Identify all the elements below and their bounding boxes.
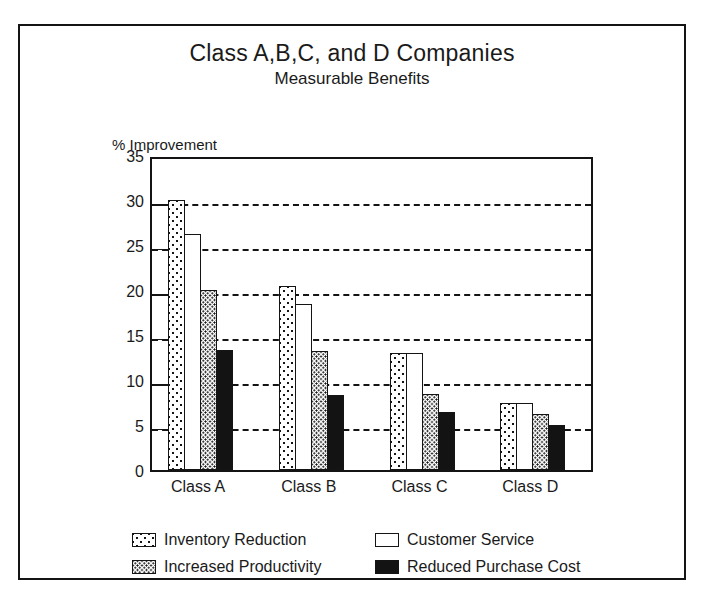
bar	[200, 290, 217, 470]
y-axis-tick-label: 35	[112, 148, 144, 166]
bar	[184, 234, 201, 470]
bar	[279, 286, 296, 471]
bar-group	[152, 159, 263, 470]
chart-legend: Inventory Reduction Customer Service Inc…	[132, 526, 612, 580]
bar	[311, 351, 328, 470]
bar	[168, 200, 185, 470]
bar	[295, 304, 312, 471]
x-axis-tick-label: Class D	[502, 478, 558, 496]
legend-swatch-icon	[132, 560, 156, 574]
bar	[406, 353, 423, 470]
y-axis-tick-label: 0	[112, 463, 144, 481]
y-axis-tick-label: 10	[112, 373, 144, 391]
bar-group	[374, 159, 485, 470]
y-axis-tick-label: 15	[112, 328, 144, 346]
legend-item-increased-productivity: Increased Productivity	[132, 558, 375, 576]
x-axis-tick-label: Class C	[391, 478, 447, 496]
legend-row: Increased Productivity Reduced Purchase …	[132, 553, 612, 580]
legend-swatch-icon	[375, 533, 399, 547]
bar	[216, 350, 233, 470]
bar	[516, 403, 533, 471]
y-axis-tick-label: 20	[112, 283, 144, 301]
y-axis-tick-label: 30	[112, 193, 144, 211]
bar-group	[484, 159, 595, 470]
legend-label: Reduced Purchase Cost	[407, 558, 580, 576]
bar	[438, 412, 455, 471]
legend-label: Customer Service	[407, 531, 534, 549]
x-axis-tick-label: Class B	[281, 478, 336, 496]
title-block: Class A,B,C, and D Companies Measurable …	[20, 40, 684, 91]
legend-item-customer-service: Customer Service	[375, 531, 612, 549]
legend-item-inventory-reduction: Inventory Reduction	[132, 531, 375, 549]
bar	[327, 395, 344, 470]
figure-frame: Class A,B,C, and D Companies Measurable …	[18, 24, 686, 580]
bar-group	[263, 159, 374, 470]
bars-layer	[152, 159, 591, 470]
bar	[532, 414, 549, 470]
bar	[422, 394, 439, 470]
page-title: Class A,B,C, and D Companies	[20, 40, 684, 66]
bar	[548, 425, 565, 470]
x-axis-tick-labels: Class AClass BClass CClass D	[150, 478, 593, 504]
legend-swatch-icon	[132, 533, 156, 547]
chart-subtitle: Measurable Benefits	[20, 68, 684, 91]
legend-row: Inventory Reduction Customer Service	[132, 526, 612, 553]
plot-area	[150, 157, 593, 472]
y-axis-tick-label: 5	[112, 418, 144, 436]
x-axis-tick-label: Class A	[171, 478, 225, 496]
legend-item-reduced-purchase-cost: Reduced Purchase Cost	[375, 558, 612, 576]
legend-swatch-icon	[375, 560, 399, 574]
bar	[390, 353, 407, 470]
legend-label: Increased Productivity	[164, 558, 321, 576]
legend-label: Inventory Reduction	[164, 531, 306, 549]
y-axis-tick-label: 25	[112, 238, 144, 256]
bar	[500, 403, 517, 471]
y-axis-tick-labels: 05101520253035	[108, 157, 144, 472]
